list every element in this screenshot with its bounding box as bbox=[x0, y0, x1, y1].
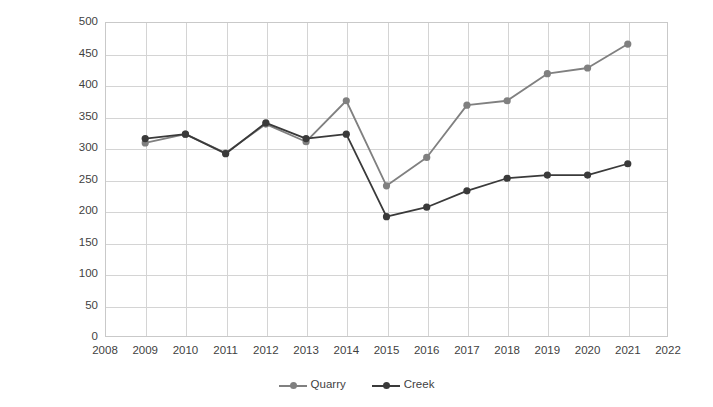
legend-label: Quarry bbox=[311, 379, 346, 391]
legend-item-quarry[interactable]: Quarry bbox=[279, 379, 346, 391]
y-axis-tick-label: 400 bbox=[52, 79, 98, 91]
y-axis-tick-label: 0 bbox=[52, 331, 98, 343]
y-axis-tick-label: 450 bbox=[52, 48, 98, 60]
y-axis-tick-label: 50 bbox=[52, 300, 98, 312]
data-point-marker bbox=[182, 131, 189, 138]
y-axis-tick-label: 350 bbox=[52, 111, 98, 123]
data-point-marker bbox=[624, 160, 631, 167]
data-point-marker bbox=[222, 150, 229, 157]
data-point-marker bbox=[504, 175, 511, 182]
series-line bbox=[145, 123, 628, 217]
data-point-marker bbox=[383, 213, 390, 220]
data-point-marker bbox=[343, 131, 350, 138]
data-point-marker bbox=[624, 40, 631, 47]
x-axis-tick-label: 2022 bbox=[638, 343, 698, 357]
data-point-marker bbox=[383, 182, 390, 189]
data-point-marker bbox=[343, 97, 350, 104]
data-point-marker bbox=[262, 119, 269, 126]
legend-item-creek[interactable]: Creek bbox=[372, 379, 435, 391]
series-layer bbox=[105, 22, 668, 337]
y-axis-tick-label: 200 bbox=[52, 205, 98, 217]
series-quarry bbox=[142, 40, 632, 189]
y-axis-tick-labels: 050100150200250300350400450500 bbox=[52, 22, 98, 337]
line-chart: Number of penguins 050100150200250300350… bbox=[0, 0, 713, 407]
data-point-marker bbox=[423, 154, 430, 161]
legend-label: Creek bbox=[404, 379, 435, 391]
data-point-marker bbox=[544, 70, 551, 77]
y-axis-tick-label: 150 bbox=[52, 237, 98, 249]
data-point-marker bbox=[142, 135, 149, 142]
x-axis-tick-labels: 2008200920102011201220132014201520162017… bbox=[105, 343, 668, 361]
y-axis-tick-label: 300 bbox=[52, 142, 98, 154]
data-point-marker bbox=[544, 171, 551, 178]
chart-legend: QuarryCreek bbox=[0, 375, 713, 395]
data-point-marker bbox=[584, 171, 591, 178]
y-axis-tick-label: 250 bbox=[52, 174, 98, 186]
data-point-marker bbox=[463, 102, 470, 109]
data-point-marker bbox=[504, 97, 511, 104]
legend-marker-icon bbox=[279, 380, 307, 391]
data-point-marker bbox=[302, 135, 309, 142]
data-point-marker bbox=[423, 204, 430, 211]
series-line bbox=[145, 44, 628, 186]
y-axis-tick-label: 100 bbox=[52, 268, 98, 280]
data-point-marker bbox=[584, 64, 591, 71]
data-point-marker bbox=[463, 187, 470, 194]
legend-marker-icon bbox=[372, 380, 400, 391]
series-creek bbox=[142, 119, 632, 220]
y-axis-tick-label: 500 bbox=[52, 16, 98, 28]
